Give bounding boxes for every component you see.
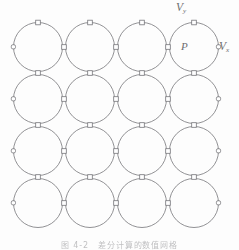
port-square-v-r1r2-c3 — [140, 71, 145, 76]
label-node-p: P — [181, 41, 188, 52]
left-edge-ports — [11, 45, 15, 205]
label-voltage-y: Vy — [176, 2, 186, 15]
port-square-h-c2c3-r1 — [114, 45, 119, 50]
port-terminal-left-r4 — [11, 201, 15, 205]
figure-caption: 图 4-2 差分计算的数值网格 — [0, 239, 239, 250]
lattice-circle-r2c2 — [66, 75, 115, 124]
port-square-h-c3c4-r4 — [166, 201, 171, 206]
label-voltage-x: Vx — [219, 41, 229, 54]
lattice-circle-r4c4 — [170, 179, 219, 228]
port-square-top-c1 — [36, 20, 41, 25]
lattice-circle-r1c2 — [66, 23, 115, 72]
port-square-top-c2 — [88, 20, 93, 25]
lattice-diagram-svg — [0, 0, 239, 250]
port-square-v-r3r4-c2 — [88, 175, 93, 180]
lattice-circle-r3c1 — [14, 127, 63, 176]
port-square-h-c3c4-r3 — [166, 149, 171, 154]
port-square-v-r2r3-c1 — [36, 123, 41, 128]
port-terminal-right-r2 — [216, 97, 220, 101]
port-terminal-right-r3 — [216, 149, 220, 153]
label-voltage-y-subscript: y — [183, 7, 186, 15]
port-terminal-left-r2 — [11, 97, 15, 101]
lattice-circle-r3c4 — [170, 127, 219, 176]
port-square-h-c1c2-r2 — [62, 97, 67, 102]
port-square-h-c1c2-r1 — [62, 45, 67, 50]
lattice-circle-r1c1 — [14, 23, 63, 72]
port-terminal-left-r1 — [11, 45, 15, 49]
port-square-v-r1r2-c2 — [88, 71, 93, 76]
label-voltage-y-symbol: V — [176, 1, 183, 13]
port-square-v-r1r2-c1 — [36, 71, 41, 76]
label-voltage-x-symbol: V — [219, 40, 226, 52]
lattice-circle-r4c3 — [118, 179, 167, 228]
port-terminal-left-r3 — [11, 149, 15, 153]
port-square-v-r3r4-c3 — [140, 175, 145, 180]
top-edge-ports — [36, 20, 197, 25]
port-square-top-c3 — [140, 20, 145, 25]
port-square-h-c3c4-r1 — [166, 45, 171, 50]
label-voltage-x-subscript: x — [226, 46, 229, 54]
lattice-circle-r1c4 — [170, 23, 219, 72]
lattice-circle-r2c4 — [170, 75, 219, 124]
port-terminal-right-r4 — [216, 201, 220, 205]
port-square-h-c1c2-r4 — [62, 201, 67, 206]
port-square-v-r2r3-c4 — [192, 123, 197, 128]
port-square-v-r2r3-c3 — [140, 123, 145, 128]
right-edge-ports — [216, 45, 220, 205]
port-square-top-c4 — [192, 20, 197, 25]
lattice-circle-r2c3 — [118, 75, 167, 124]
lattice-circle-r2c1 — [14, 75, 63, 124]
figure-container: Vy Vx P 图 4-2 差分计算的数值网格 — [0, 0, 239, 250]
lattice-circle-r3c3 — [118, 127, 167, 176]
port-square-v-r1r2-c4 — [192, 71, 197, 76]
port-square-v-r3r4-c4 — [192, 175, 197, 180]
port-square-v-r2r3-c2 — [88, 123, 93, 128]
port-square-h-c1c2-r3 — [62, 149, 67, 154]
lattice-circle-r3c2 — [66, 127, 115, 176]
lattice-circle-r1c3 — [118, 23, 167, 72]
port-square-h-c3c4-r2 — [166, 97, 171, 102]
port-square-v-r3r4-c1 — [36, 175, 41, 180]
port-square-h-c2c3-r4 — [114, 201, 119, 206]
lattice-circle-r4c1 — [14, 179, 63, 228]
port-square-h-c2c3-r3 — [114, 149, 119, 154]
port-square-h-c2c3-r2 — [114, 97, 119, 102]
lattice-circle-r4c2 — [66, 179, 115, 228]
